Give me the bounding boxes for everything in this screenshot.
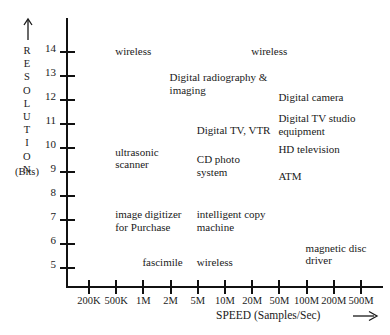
y-axis-tick: 11	[60, 123, 75, 125]
x-axis-tick: 5M	[197, 280, 199, 294]
y-axis-title-letter: E	[14, 57, 40, 70]
x-axis-tick-label: 200K	[77, 296, 100, 307]
x-axis-tick: 20M	[251, 280, 253, 294]
y-axis-tick-label: 9	[51, 163, 57, 174]
y-axis-arrow-icon	[22, 17, 34, 41]
y-axis-title: RESOLUTION	[14, 44, 40, 176]
x-axis-tick: 200M	[333, 280, 335, 294]
data-point-label: Digital TV, VTR	[197, 124, 271, 137]
x-axis-tick-label: 100M	[294, 296, 319, 307]
x-axis-tick: 10M	[224, 280, 226, 294]
x-axis-tick-label: 10M	[215, 296, 235, 307]
x-axis-tick-label: 1M	[136, 296, 151, 307]
y-axis-tick-label: 13	[45, 67, 56, 78]
y-axis-tick-label: 14	[45, 43, 56, 54]
data-point-label: ATM	[278, 170, 301, 183]
x-axis-tick-label: 2M	[163, 296, 178, 307]
y-axis-tick-label: 8	[51, 187, 57, 198]
y-axis-line	[66, 18, 68, 288]
x-axis-tick-label: 500M	[348, 296, 373, 307]
y-axis-tick-label: 5	[51, 259, 57, 270]
data-point-label: ultrasonic scanner	[115, 146, 158, 171]
y-axis-tick: 8	[60, 195, 75, 197]
y-axis-title-letter: U	[14, 110, 40, 123]
data-point-label: wireless	[115, 45, 151, 58]
data-point-label: image digitizer for Purchase	[115, 208, 181, 233]
y-axis-title-letter: S	[14, 70, 40, 83]
y-axis-title-letter: R	[14, 44, 40, 57]
y-axis-tick-label: 10	[45, 139, 56, 150]
y-axis-tick: 6	[60, 243, 75, 245]
data-point-label: CD photo system	[197, 153, 240, 178]
y-axis-tick-label: 7	[51, 211, 57, 222]
data-point-label: fascimile	[142, 256, 182, 269]
y-axis-tick-label: 6	[51, 235, 57, 246]
x-axis-tick: 500K	[115, 280, 117, 294]
data-point-label: intelligent copy machine	[197, 208, 266, 233]
x-axis-tick-label: 20M	[242, 296, 262, 307]
y-axis-title-letter: O	[14, 84, 40, 97]
y-axis-tick: 10	[60, 147, 75, 149]
y-axis-tick: 7	[60, 219, 75, 221]
x-axis-tick: 50M	[278, 280, 280, 294]
x-axis-tick-label: 200M	[321, 296, 346, 307]
x-axis-tick: 1M	[142, 280, 144, 294]
data-point-label: Digital camera	[278, 91, 343, 104]
y-axis-title-letter: I	[14, 136, 40, 149]
y-axis-tick-label: 11	[45, 115, 56, 126]
y-axis-tick: 12	[60, 99, 75, 101]
resolution-speed-chart: RESOLUTION (Bits) 141312111098765 200K50…	[0, 0, 390, 335]
x-axis-arrow-icon	[353, 310, 379, 322]
x-axis-tick: 100M	[306, 280, 308, 294]
data-point-label: wireless	[197, 256, 233, 269]
y-axis-tick: 14	[60, 51, 75, 53]
x-axis-tick-label: 5M	[191, 296, 206, 307]
x-axis-title: SPEED (Samples/Sec)	[216, 310, 320, 322]
x-axis-tick-label: 500K	[105, 296, 128, 307]
data-point-label: Digital TV studio equipment	[278, 112, 355, 137]
data-point-label: HD television	[278, 143, 339, 156]
data-point-label: wireless	[251, 45, 287, 58]
y-axis-tick-label: 12	[45, 91, 56, 102]
x-axis-tick-label: 50M	[269, 296, 289, 307]
x-axis-tick: 500M	[360, 280, 362, 294]
data-point-label: Digital radiography & imaging	[170, 71, 268, 96]
x-axis-tick: 200K	[88, 280, 90, 294]
data-point-label: magnetic disc driver	[306, 242, 367, 267]
y-axis-title-letter: O	[14, 150, 40, 163]
y-axis-title-letter: T	[14, 123, 40, 136]
x-axis-tick: 2M	[170, 280, 172, 294]
y-axis-tick: 5	[60, 267, 75, 269]
y-axis-units-label: (Bits)	[4, 167, 50, 178]
y-axis-title-letter: L	[14, 97, 40, 110]
y-axis-tick: 13	[60, 75, 75, 77]
y-axis-tick: 9	[60, 171, 75, 173]
